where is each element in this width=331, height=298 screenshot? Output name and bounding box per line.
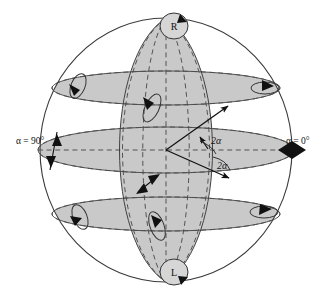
- left-equator-arrow-down: [46, 156, 56, 168]
- marker-bottom-pole: L: [160, 259, 188, 285]
- angle-lower-label: 2α: [217, 160, 228, 171]
- angle-upper-label: 2α: [211, 135, 222, 146]
- marker-top-pole: R: [160, 13, 188, 39]
- left-axis-label: α = 90°: [16, 136, 45, 146]
- right-axis-label: α = 0°: [286, 136, 310, 146]
- pole-top-label: R: [171, 21, 178, 32]
- poincare-sphere-figure: R L: [0, 0, 331, 298]
- pole-bottom-label: L: [171, 267, 177, 278]
- poincare-sphere-canvas: R L: [0, 0, 331, 298]
